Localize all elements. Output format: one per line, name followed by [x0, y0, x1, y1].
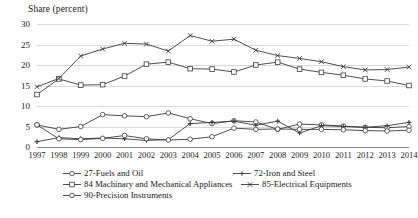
data-point-marker [144, 137, 149, 142]
x-tick-label: 2002 [138, 150, 155, 160]
chart-container: Share (percent) 051015202530 19971998199… [0, 0, 418, 218]
legend-label: 84 Machinary and Mechanical Appliances [82, 179, 233, 189]
data-point-marker [275, 60, 280, 65]
data-point-marker [232, 126, 237, 131]
x-tick-label: 2001 [116, 150, 133, 160]
data-point-marker [385, 79, 390, 84]
data-point-marker [166, 111, 171, 116]
x-tick-label: 2010 [313, 150, 330, 160]
data-point-marker [78, 137, 83, 142]
data-point-marker [122, 114, 127, 119]
data-point-marker [275, 119, 280, 124]
data-point-marker [297, 122, 302, 127]
legend-marker-icon [232, 169, 252, 178]
legend-item[interactable]: 84 Machinary and Mechanical Appliances [62, 179, 233, 189]
data-point-marker [122, 133, 127, 138]
x-tick-label: 2011 [335, 150, 352, 160]
data-point-marker [166, 138, 171, 143]
data-point-marker [35, 123, 40, 128]
data-point-marker [57, 137, 62, 142]
y-tick-label: 20 [21, 61, 30, 70]
series-group [35, 60, 412, 97]
data-point-marker [385, 129, 390, 134]
x-tick-label: 2006 [225, 150, 242, 160]
x-tick-label: 2000 [94, 150, 111, 160]
series-group [35, 33, 412, 89]
data-point-marker [144, 114, 149, 119]
data-point-marker [341, 73, 346, 78]
data-point-marker [297, 127, 302, 132]
data-point-marker [35, 139, 40, 144]
data-point-marker [363, 77, 368, 82]
data-point-marker [341, 127, 346, 132]
series-layer [37, 24, 409, 147]
series-group [35, 123, 412, 143]
legend-label: 72-Iron and Steel [252, 168, 315, 178]
x-tick-label: 1998 [50, 150, 67, 160]
data-point-marker [35, 92, 40, 97]
data-point-marker [100, 82, 105, 87]
data-point-marker [188, 137, 193, 142]
data-point-marker [70, 182, 75, 187]
x-tick-label: 2012 [357, 150, 374, 160]
data-point-marker [407, 128, 412, 133]
data-point-marker [122, 74, 127, 79]
data-point-marker [210, 134, 215, 139]
x-tick-label: 2004 [182, 150, 199, 160]
data-point-marker [166, 49, 171, 54]
x-tick-label: 1997 [28, 150, 45, 160]
data-point-marker [363, 128, 368, 133]
y-axis-tick-labels: 051015202530 [0, 24, 33, 147]
x-tick-label: 2003 [160, 150, 177, 160]
legend-item[interactable]: 72-Iron and Steel [232, 168, 315, 178]
data-point-marker [70, 193, 75, 198]
legend-item[interactable]: 85-Electrical Equipments [240, 179, 352, 189]
x-axis-line [37, 147, 409, 148]
data-point-marker [166, 60, 171, 65]
data-point-marker [35, 84, 40, 89]
data-point-marker [70, 171, 75, 176]
data-point-marker [407, 83, 412, 88]
data-point-marker [78, 54, 83, 59]
data-point-marker [188, 116, 193, 121]
legend-item[interactable]: 90-Precision Instruments [62, 190, 172, 200]
data-point-marker [210, 67, 215, 72]
y-tick-label: 10 [21, 102, 30, 111]
x-tick-label: 2013 [379, 150, 396, 160]
chart-legend: 27-Fuels and Oil72-Iron and Steel84 Mach… [0, 168, 418, 216]
data-point-marker [254, 63, 259, 68]
y-axis-title: Share (percent) [28, 4, 88, 14]
data-point-marker [297, 67, 302, 72]
x-tick-label: 2008 [269, 150, 286, 160]
legend-label: 27-Fuels and Oil [82, 168, 143, 178]
data-point-marker [232, 70, 237, 75]
legend-marker-icon [62, 191, 82, 200]
y-tick-label: 25 [21, 41, 30, 50]
data-point-marker [100, 136, 105, 141]
legend-item[interactable]: 27-Fuels and Oil [62, 168, 143, 178]
y-tick-label: 30 [21, 20, 30, 29]
x-tick-label: 2007 [247, 150, 264, 160]
data-point-marker [78, 83, 83, 88]
x-tick-label: 2014 [400, 150, 417, 160]
y-tick-label: 5 [26, 123, 31, 132]
data-point-marker [319, 127, 324, 132]
data-point-marker [188, 66, 193, 71]
series-line [37, 62, 409, 94]
legend-label: 85-Electrical Equipments [260, 179, 352, 189]
data-point-marker [407, 120, 412, 125]
y-tick-label: 15 [21, 82, 30, 91]
series-line [37, 35, 409, 86]
x-axis-tick-labels: 1997199819992000200120022003200420052006… [37, 150, 409, 164]
x-tick-label: 2009 [291, 150, 308, 160]
x-tick-label: 1999 [72, 150, 89, 160]
legend-marker-icon [62, 169, 82, 178]
data-point-marker [144, 62, 149, 67]
data-point-marker [254, 127, 259, 132]
data-point-marker [100, 112, 105, 117]
x-tick-label: 2005 [203, 150, 220, 160]
legend-marker-icon [62, 180, 82, 189]
data-point-marker [319, 70, 324, 75]
legend-label: 90-Precision Instruments [82, 190, 172, 200]
data-point-marker [240, 171, 245, 176]
